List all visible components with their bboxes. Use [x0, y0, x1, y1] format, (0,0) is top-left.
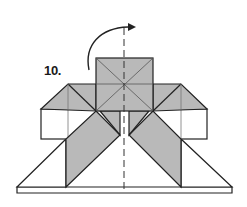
- base-left-triangle: [17, 139, 66, 187]
- step-number-label: 10.: [44, 63, 61, 78]
- diagram-canvas: [0, 0, 247, 207]
- base-right-triangle: [181, 139, 232, 187]
- right-wing-triangle: [153, 84, 207, 111]
- arrow-head-icon: [128, 23, 136, 31]
- left-wing-triangle: [41, 84, 96, 111]
